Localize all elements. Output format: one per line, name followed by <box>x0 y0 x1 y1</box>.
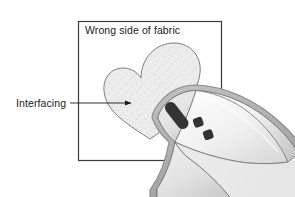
iron <box>150 85 295 197</box>
interfacing-label: Interfacing <box>16 97 66 109</box>
fabric-label: Wrong side of fabric <box>85 24 180 36</box>
interfacing-iron-illustration: Wrong side of fabric Interfacing <box>0 0 295 197</box>
diagram-canvas: Wrong side of fabric Interfacing <box>0 0 295 197</box>
